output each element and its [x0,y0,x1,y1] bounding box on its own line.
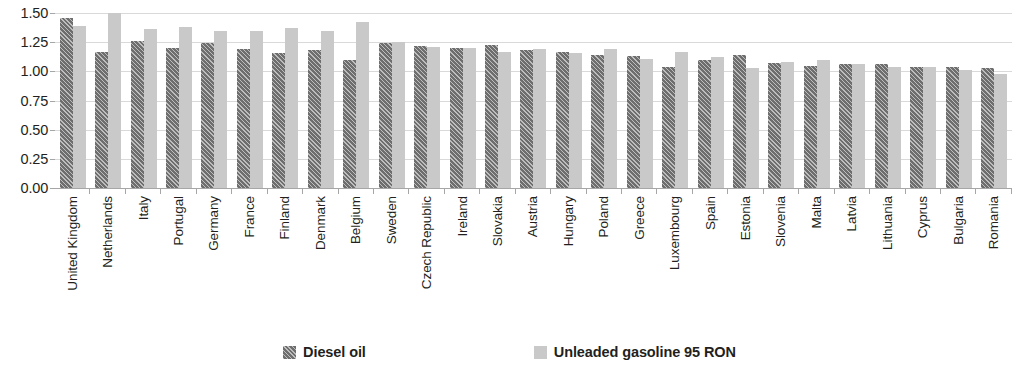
bar-diesel[interactable] [272,53,285,188]
bar-diesel[interactable] [627,56,640,188]
x-axis-tick-label: Estonia [739,196,753,240]
bar-diesel[interactable] [662,67,675,188]
bar-gasoline[interactable] [746,68,759,188]
bar-gasoline[interactable] [711,57,724,188]
x-axis-label-cell: Germany [197,196,232,326]
x-axis-tick [906,188,941,194]
bar-diesel[interactable] [804,66,817,189]
bar-group [799,13,834,188]
bar-gasoline[interactable] [321,31,334,189]
bar-gasoline[interactable] [392,42,405,188]
bar-gasoline[interactable] [356,22,369,188]
bar-group [303,13,338,188]
x-axis-tick [657,188,692,194]
bar-group [339,13,374,188]
x-axis-tick-label: Denmark [314,196,328,250]
bar-diesel[interactable] [591,55,604,188]
bar-diesel[interactable] [60,18,73,188]
bar-diesel[interactable] [839,64,852,188]
x-axis-tick [339,188,374,194]
bar-diesel[interactable] [237,49,250,188]
bar-gasoline[interactable] [250,31,263,189]
bar-group [693,13,728,188]
bar-group [90,13,125,188]
bar-group [197,13,232,188]
x-axis-tick [551,188,586,194]
x-axis-label-cell: Slovenia [764,196,799,326]
x-axis-tick [303,188,338,194]
x-axis-tick [126,188,161,194]
bar-gasoline[interactable] [959,70,972,188]
bar-diesel[interactable] [379,43,392,188]
x-axis-tick [480,188,515,194]
bar-diesel[interactable] [131,41,144,188]
bar-group [976,13,1011,188]
bar-diesel[interactable] [308,50,321,188]
x-axis-tick-label: Czech Republic [420,196,434,289]
legend-item-gasoline[interactable]: Unleaded gasoline 95 RON [534,344,736,360]
x-axis-label-cell: Netherlands [90,196,125,326]
bar-gasoline[interactable] [179,27,192,188]
x-axis-label-cell: Finland [268,196,303,326]
bar-gasoline[interactable] [108,13,121,188]
x-axis-tick-label: Latvia [846,196,860,231]
bar-gasoline[interactable] [640,59,653,189]
bar-gasoline[interactable] [675,52,688,189]
legend-label-diesel: Diesel oil [303,344,366,360]
x-axis-tick-label: Greece [633,196,647,240]
x-axis-tick-label: Malta [810,196,824,229]
bar-diesel[interactable] [485,45,498,189]
bar-gasoline[interactable] [73,26,86,188]
bar-gasoline[interactable] [498,52,511,189]
x-axis-tick [409,188,444,194]
x-axis-tick-label: Slovakia [491,196,505,246]
bar-diesel[interactable] [414,46,427,188]
bar-gasoline[interactable] [463,48,476,188]
bar-gasoline[interactable] [817,60,830,188]
bar-gasoline[interactable] [994,74,1007,188]
bar-diesel[interactable] [768,63,781,188]
bar-diesel[interactable] [166,48,179,188]
bar-gasoline[interactable] [427,47,440,188]
bar-group [587,13,622,188]
x-axis-label-cell: Greece [622,196,657,326]
bar-gasoline[interactable] [852,64,865,188]
bar-diesel[interactable] [875,64,888,188]
bar-gasoline[interactable] [285,28,298,188]
fuel-price-bar-chart: 0.000.250.500.751.001.251.50 United King… [0,0,1019,373]
bar-group [835,13,870,188]
bar-gasoline[interactable] [533,49,546,188]
bar-diesel[interactable] [733,55,746,188]
bar-diesel[interactable] [201,43,214,188]
bar-diesel[interactable] [946,67,959,188]
x-axis-label-cell: Latvia [835,196,870,326]
bar-gasoline[interactable] [781,62,794,188]
bar-group [728,13,763,188]
bar-group [126,13,161,188]
bar-group [906,13,941,188]
bar-diesel[interactable] [520,50,533,188]
bar-gasoline[interactable] [888,67,901,188]
bar-group [870,13,905,188]
bar-diesel[interactable] [95,52,108,189]
bar-gasoline[interactable] [604,49,617,188]
bar-diesel[interactable] [343,60,356,188]
bar-diesel[interactable] [981,68,994,188]
bar-group [622,13,657,188]
bar-gasoline[interactable] [923,67,936,188]
bar-diesel[interactable] [556,52,569,189]
bar-diesel[interactable] [698,60,711,188]
bar-gasoline[interactable] [144,29,157,188]
x-axis-tick-label: Ireland [456,196,470,237]
legend-item-diesel[interactable]: Diesel oil [283,344,366,360]
x-axis-tick [197,188,232,194]
bar-group [409,13,444,188]
bar-diesel[interactable] [450,48,463,188]
x-axis-tick [587,188,622,194]
x-axis-tick-label: Italy [137,196,151,220]
bar-gasoline[interactable] [569,53,582,188]
bar-groups [55,13,1012,188]
x-axis-tick-label: Cyprus [916,196,930,238]
bar-diesel[interactable] [910,67,923,188]
bar-gasoline[interactable] [214,31,227,189]
